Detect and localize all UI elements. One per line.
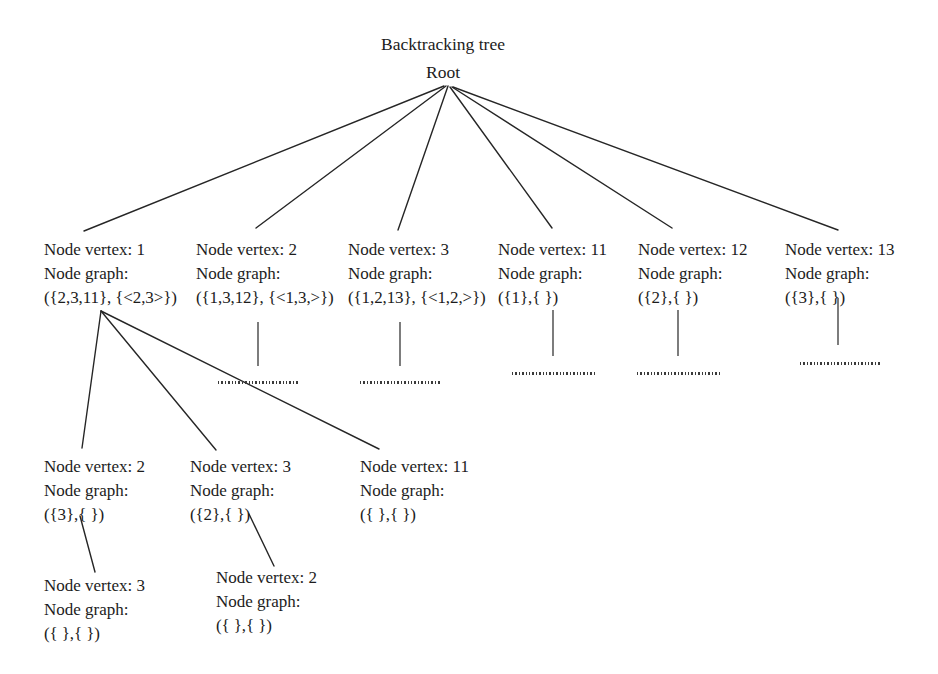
- tree-edge: [453, 87, 838, 230]
- node-graph-value: ({3},{ }): [785, 286, 895, 310]
- continuation-dots: [218, 381, 300, 384]
- node-vertex-label: Node vertex: 11: [498, 238, 607, 262]
- backtracking-tree-diagram: Backtracking tree Root Node vertex: 1Nod…: [0, 0, 938, 674]
- tree-edge: [82, 311, 101, 448]
- node-vertex-label: Node vertex: 12: [638, 238, 748, 262]
- node-graph-label: Node graph:: [360, 479, 469, 503]
- continuation-dots: [637, 372, 721, 375]
- node-vertex-label: Node vertex: 2: [216, 566, 317, 590]
- continuation-dots: [800, 362, 880, 365]
- node-graph-value: ({ },{ }): [44, 622, 145, 646]
- node-graph-value: ({3},{ }): [44, 503, 145, 527]
- node-graph-value: ({1},{ }): [498, 286, 607, 310]
- diagram-title: Backtracking tree: [381, 32, 505, 56]
- tree-edge: [84, 86, 444, 231]
- node-vertex-label: Node vertex: 1: [44, 238, 177, 262]
- node-graph-value: ({ },{ }): [360, 503, 469, 527]
- node-graph-label: Node graph:: [196, 262, 334, 286]
- tree-node: Node vertex: 11Node graph:({ },{ }): [360, 455, 469, 527]
- node-graph-label: Node graph:: [216, 590, 317, 614]
- continuation-dots: [360, 381, 442, 384]
- node-graph-label: Node graph:: [348, 262, 486, 286]
- node-graph-label: Node graph:: [190, 479, 291, 503]
- tree-node: Node vertex: 2Node graph:({3},{ }): [44, 455, 145, 527]
- continuation-dots: [512, 372, 596, 375]
- node-graph-value: ({ },{ }): [216, 614, 317, 638]
- node-graph-label: Node graph:: [44, 598, 145, 622]
- tree-node: Node vertex: 2Node graph:({ },{ }): [216, 566, 317, 638]
- tree-edge: [450, 87, 552, 228]
- tree-edge: [452, 87, 672, 228]
- node-vertex-label: Node vertex: 11: [360, 455, 469, 479]
- tree-edge: [101, 311, 216, 450]
- tree-edge: [256, 86, 446, 228]
- node-graph-value: ({2},{ }): [638, 286, 748, 310]
- node-graph-value: ({2,3,11}, {<2,3>}): [44, 286, 177, 310]
- node-graph-label: Node graph:: [44, 479, 145, 503]
- tree-node: Node vertex: 11Node graph:({1},{ }): [498, 238, 607, 310]
- node-graph-label: Node graph:: [44, 262, 177, 286]
- tree-edge: [398, 86, 448, 230]
- tree-node: Node vertex: 3Node graph:({ },{ }): [44, 574, 145, 646]
- root-node-label: Root: [426, 60, 460, 84]
- tree-node: Node vertex: 12Node graph:({2},{ }): [638, 238, 748, 310]
- edge-layer: [0, 0, 938, 674]
- node-vertex-label: Node vertex: 3: [348, 238, 486, 262]
- node-graph-value: ({1,2,13}, {<1,2,>}): [348, 286, 486, 310]
- node-graph-label: Node graph:: [785, 262, 895, 286]
- tree-node: Node vertex: 13Node graph:({3},{ }): [785, 238, 895, 310]
- node-vertex-label: Node vertex: 3: [190, 455, 291, 479]
- tree-edge: [101, 311, 379, 449]
- node-graph-label: Node graph:: [498, 262, 607, 286]
- node-vertex-label: Node vertex: 2: [44, 455, 145, 479]
- tree-node: Node vertex: 1Node graph:({2,3,11}, {<2,…: [44, 238, 177, 310]
- node-graph-label: Node graph:: [638, 262, 748, 286]
- tree-node: Node vertex: 2Node graph:({1,3,12}, {<1,…: [196, 238, 334, 310]
- node-vertex-label: Node vertex: 2: [196, 238, 334, 262]
- tree-node: Node vertex: 3Node graph:({1,2,13}, {<1,…: [348, 238, 486, 310]
- node-graph-value: ({2},{ }): [190, 503, 291, 527]
- node-vertex-label: Node vertex: 13: [785, 238, 895, 262]
- node-graph-value: ({1,3,12}, {<1,3,>}): [196, 286, 334, 310]
- node-vertex-label: Node vertex: 3: [44, 574, 145, 598]
- tree-node: Node vertex: 3Node graph:({2},{ }): [190, 455, 291, 527]
